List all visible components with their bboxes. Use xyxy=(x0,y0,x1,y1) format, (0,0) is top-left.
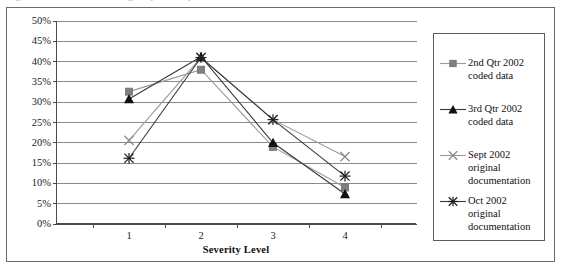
series-line xyxy=(129,57,345,194)
y-axis-label: 15% xyxy=(32,158,51,169)
legend-entry[interactable]: 2nd Qtr 2002 coded data xyxy=(439,56,524,82)
y-axis-label: 50% xyxy=(32,16,51,27)
data-point-x xyxy=(124,136,133,145)
legend-label: Sept 2002 original documentation xyxy=(468,148,530,187)
legend-marker-triangle-icon xyxy=(439,103,467,116)
y-axis-label: 45% xyxy=(32,36,51,47)
cropped-caption-remnant: Figure 3. Percent of discharges by sever… xyxy=(0,0,563,7)
y-axis-label: 0% xyxy=(37,219,51,230)
data-point-asterisk xyxy=(195,52,206,63)
x-axis-label: 1 xyxy=(126,231,131,242)
series-line xyxy=(129,58,345,177)
plot-area: 50%45%40%35%30%25%20%15%10%5%0% 1234 xyxy=(56,21,416,224)
y-axis-label: 25% xyxy=(32,117,51,128)
legend-entry[interactable]: 3rd Qtr 2002 coded data xyxy=(439,102,522,128)
y-axis-label: 20% xyxy=(32,138,51,149)
legend-marker-asterisk-icon xyxy=(439,195,467,208)
data-point-square xyxy=(198,66,205,73)
y-axis-label: 30% xyxy=(32,97,51,108)
data-point-x xyxy=(340,152,349,161)
legend-marker-square-icon xyxy=(439,57,467,70)
legend-entry[interactable]: Sept 2002 original documentation xyxy=(439,148,530,187)
y-axis-label: 40% xyxy=(32,56,51,67)
data-point-square xyxy=(450,60,456,66)
data-point-asterisk xyxy=(123,153,134,164)
figure-frame: 50%45%40%35%30%25%20%15%10%5%0% 1234 Sev… xyxy=(6,7,555,262)
y-axis-label: 35% xyxy=(32,77,51,88)
series-line xyxy=(129,58,345,157)
legend-label: Oct 2002 original documentation xyxy=(468,194,530,233)
legend-label: 3rd Qtr 2002 coded data xyxy=(468,102,522,128)
legend-label: 2nd Qtr 2002 coded data xyxy=(468,56,524,82)
y-axis-label: 5% xyxy=(37,198,51,209)
legend-entry[interactable]: Oct 2002 original documentation xyxy=(439,194,530,233)
y-axis-label: 10% xyxy=(32,178,51,189)
data-point-asterisk xyxy=(448,197,458,207)
x-axis-label: 2 xyxy=(198,231,203,242)
x-axis-label: 3 xyxy=(270,231,275,242)
x-axis-title: Severity Level xyxy=(56,244,416,255)
caption-text: Figure 3. Percent of discharges by sever… xyxy=(6,0,218,1)
x-axis-label: 4 xyxy=(342,231,347,242)
series-plot xyxy=(57,21,417,224)
series-line xyxy=(129,70,345,188)
chart-legend: 2nd Qtr 2002 coded data3rd Qtr 2002 code… xyxy=(433,33,545,241)
data-point-asterisk xyxy=(339,171,350,182)
data-point-asterisk xyxy=(267,114,278,125)
legend-marker-x-icon xyxy=(439,149,467,162)
